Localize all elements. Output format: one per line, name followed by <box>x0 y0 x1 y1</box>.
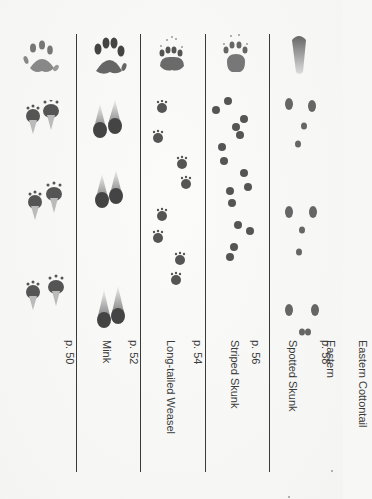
page-reference: p. 56 <box>249 340 262 412</box>
column-divider <box>76 34 77 472</box>
page-reference: p. 52 <box>127 340 140 434</box>
paper-speck <box>288 496 290 498</box>
page-reference: p. 58 <box>319 340 332 427</box>
weasel-foot-print-icon <box>86 35 130 79</box>
striped-skunk-foot-print-icon <box>155 34 189 78</box>
spotted-skunk-track-icon <box>210 95 260 275</box>
cottontail-track-icon <box>282 96 322 356</box>
mink-track-icon <box>20 100 70 350</box>
paper-speck <box>331 470 333 472</box>
species-label-cottontail: Eastern Cottontail p. 58 <box>294 340 372 427</box>
species-name: Eastern Cottontail <box>357 340 370 427</box>
page-reference: p. 50 <box>63 340 76 364</box>
mink-foot-print-icon <box>20 38 64 80</box>
striped-skunk-track-icon <box>148 100 198 300</box>
spotted-skunk-foot-print-icon <box>219 32 253 78</box>
page-reference: p. 54 <box>191 340 204 408</box>
cottontail-foot-print-icon <box>288 32 310 76</box>
weasel-track-icon <box>88 100 138 350</box>
